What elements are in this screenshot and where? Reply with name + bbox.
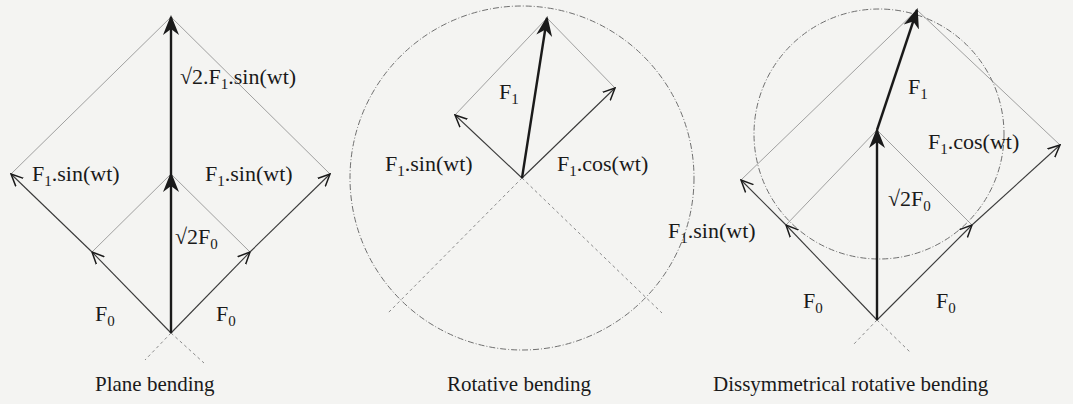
label-f1-sin: F1.sin(wt)	[385, 153, 473, 179]
guide-line	[786, 130, 877, 225]
label-f1: F1	[499, 81, 519, 107]
label-f1: F1	[908, 76, 928, 102]
label-f0-right: F0	[936, 290, 956, 316]
f1-vector	[877, 10, 917, 130]
label-f1-sin-right: F1.sin(wt)	[205, 163, 293, 189]
f0-right-vector	[171, 252, 250, 333]
caption-rotative-bending: Rotative bending	[447, 372, 591, 397]
dashed-diagonal-right	[522, 178, 662, 313]
guide-line	[547, 18, 615, 88]
dashed-extension-right	[171, 333, 204, 363]
label-sqrt2-f1-sin: √2.F1.sin(wt)	[180, 66, 296, 92]
dashed-extension-left	[853, 320, 877, 345]
guide-line	[741, 10, 917, 180]
bending-diagrams-figure: √2.F1.sin(wt) F1.sin(wt) F1.sin(wt) √2F0…	[0, 0, 1073, 404]
f1-cos-vector	[972, 145, 1060, 225]
f0-right-vector	[877, 225, 972, 320]
label-f0-right: F0	[216, 303, 236, 329]
label-f1-cos: F1.cos(wt)	[557, 153, 648, 179]
dashed-extension-left	[145, 333, 171, 360]
f0-left-vector	[786, 225, 877, 320]
label-f0-left: F0	[95, 303, 115, 329]
dashed-extension-right	[877, 320, 910, 352]
label-f1-sin: F1.sin(wt)	[668, 220, 756, 246]
label-sqrt2-f0: √2F0	[888, 188, 931, 214]
guide-line	[11, 17, 171, 174]
dissymmetrical-bending-diagram	[741, 9, 1060, 352]
label-f0-left: F0	[803, 290, 823, 316]
guide-line	[171, 17, 330, 174]
label-f1-cos: F1.cos(wt)	[928, 131, 1019, 157]
caption-plane-bending: Plane bending	[95, 372, 215, 397]
caption-dissymmetrical-rotative-bending: Dissymmetrical rotative bending	[713, 372, 988, 397]
label-f1-sin-left: F1.sin(wt)	[32, 163, 120, 189]
label-sqrt2-f0: √2F0	[175, 226, 218, 252]
guide-line	[917, 10, 1060, 145]
dashed-diagonal-left	[388, 178, 522, 313]
f1-vector	[522, 18, 547, 178]
